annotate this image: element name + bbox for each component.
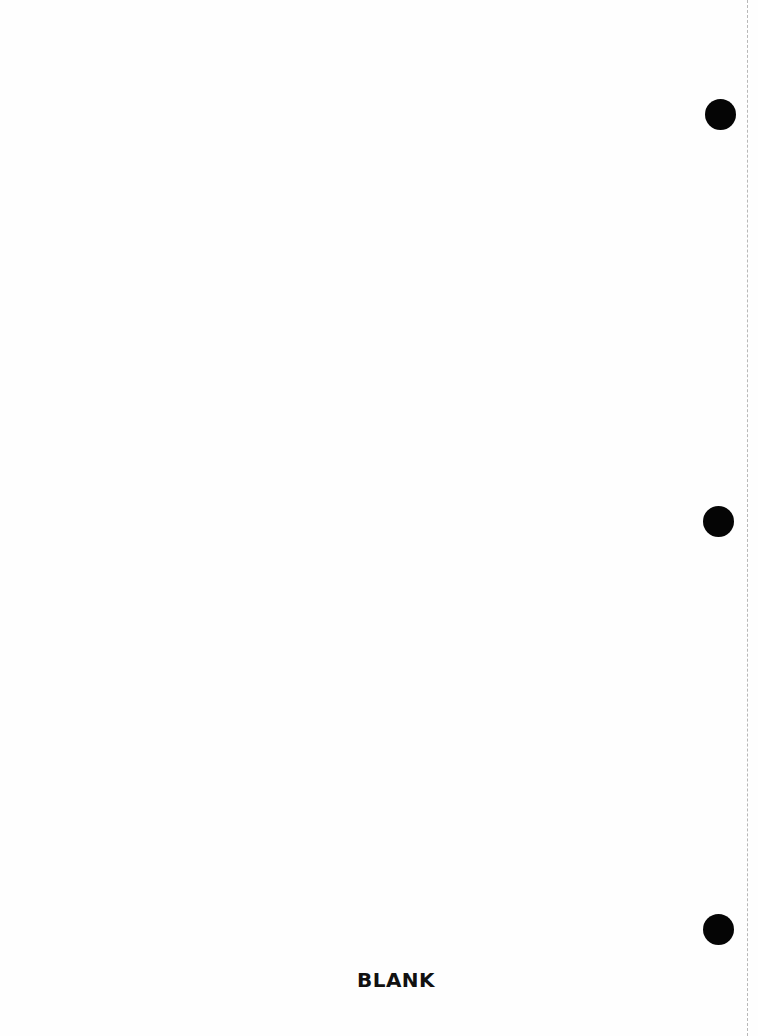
hole-punch-bottom — [703, 914, 734, 945]
blank-page: BLANK — [0, 0, 758, 1036]
perforation-line — [747, 0, 748, 1036]
hole-punch-top — [705, 99, 736, 130]
blank-page-label: BLANK — [0, 968, 758, 992]
hole-punch-middle — [703, 506, 734, 537]
